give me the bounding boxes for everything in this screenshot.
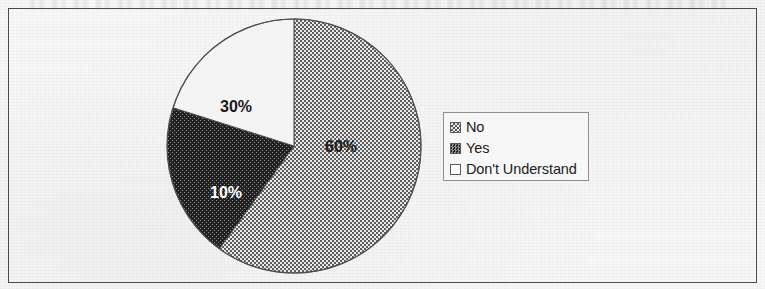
legend-label-no: No — [466, 119, 484, 135]
scanned-pie-chart-page: 60% 10% 30% No Yes Don't Understand — [0, 0, 765, 289]
pie-label-dont-understand: 30% — [220, 98, 252, 115]
legend-label-dont-understand: Don't Understand — [466, 161, 577, 177]
pie-chart: 60% 10% 30% — [0, 0, 765, 289]
pie-label-yes: 10% — [210, 184, 242, 201]
legend-swatch-no-icon — [450, 122, 461, 133]
legend-item-no[interactable]: No — [450, 117, 588, 137]
legend-label-yes: Yes — [466, 140, 489, 156]
legend-item-yes[interactable]: Yes — [450, 138, 588, 158]
legend-item-dont-understand[interactable]: Don't Understand — [450, 159, 588, 179]
chart-legend: No Yes Don't Understand — [443, 112, 589, 181]
pie-label-no: 60% — [325, 138, 357, 155]
legend-swatch-dont-understand-icon — [450, 164, 461, 175]
legend-swatch-yes-icon — [450, 143, 461, 154]
